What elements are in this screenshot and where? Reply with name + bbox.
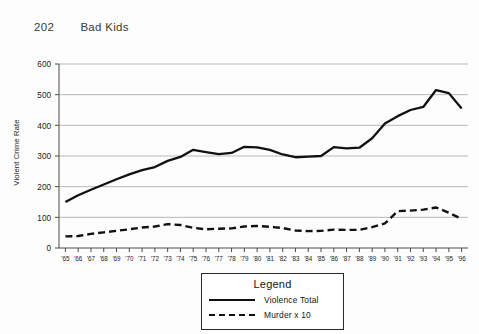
svg-text:'82: '82 <box>279 255 288 262</box>
svg-text:'88: '88 <box>355 255 364 262</box>
svg-text:'68: '68 <box>100 255 109 262</box>
svg-text:'94: '94 <box>432 255 441 262</box>
series-line-murder-x-10 <box>65 208 461 237</box>
gridlines <box>59 64 468 217</box>
svg-text:'83: '83 <box>291 255 300 262</box>
line-chart: 0100200300400500600 '65'66'67'68'69'70'7… <box>0 52 479 262</box>
svg-text:'92: '92 <box>406 255 415 262</box>
svg-text:400: 400 <box>37 122 51 131</box>
svg-text:'89: '89 <box>368 255 377 262</box>
book-page: 202 Bad Kids 0100200300400500600 '65'66'… <box>0 0 479 334</box>
data-series-lines <box>65 90 461 236</box>
legend-title: Legend <box>202 278 343 290</box>
svg-text:'85: '85 <box>317 255 326 262</box>
chart-legend: Legend Violence Total Murder x 10 <box>201 273 344 330</box>
series-line-violence-total <box>65 90 461 202</box>
figure-violent-crime-rate: 0100200300400500600 '65'66'67'68'69'70'7… <box>0 52 479 334</box>
svg-text:'76: '76 <box>202 255 211 262</box>
legend-swatch-solid-icon <box>209 295 255 305</box>
svg-text:'93: '93 <box>419 255 428 262</box>
svg-text:'90: '90 <box>381 255 390 262</box>
svg-text:'95: '95 <box>445 255 454 262</box>
svg-text:'78: '78 <box>227 255 236 262</box>
svg-text:500: 500 <box>37 91 51 100</box>
svg-text:'87: '87 <box>342 255 351 262</box>
svg-text:'66: '66 <box>74 255 83 262</box>
svg-text:'75: '75 <box>189 255 198 262</box>
svg-text:'72: '72 <box>151 255 160 262</box>
svg-text:600: 600 <box>37 60 51 69</box>
svg-text:'81: '81 <box>266 255 275 262</box>
page-running-header: 202 Bad Kids <box>34 21 129 33</box>
legend-label-violence-total: Violence Total <box>264 295 319 305</box>
svg-text:200: 200 <box>37 183 51 192</box>
legend-label-murder-x10: Murder x 10 <box>264 310 311 320</box>
legend-swatch-dashed-icon <box>209 310 255 320</box>
running-title: Bad Kids <box>80 21 128 33</box>
svg-text:'86: '86 <box>330 255 339 262</box>
svg-text:100: 100 <box>37 214 51 223</box>
legend-item-murder-x10: Murder x 10 <box>202 310 343 320</box>
svg-text:'74: '74 <box>176 255 185 262</box>
svg-text:'71: '71 <box>138 255 147 262</box>
svg-text:'69: '69 <box>112 255 121 262</box>
svg-text:0: 0 <box>46 244 51 253</box>
x-axis-ticks <box>65 248 461 252</box>
x-axis-tick-labels: '65'66'67'68'69'70'71'72'73'74'75'76'77'… <box>61 255 466 262</box>
svg-text:'84: '84 <box>304 255 313 262</box>
y-axis-ticks <box>55 64 59 248</box>
svg-text:'70: '70 <box>125 255 134 262</box>
svg-text:'79: '79 <box>240 255 249 262</box>
y-axis-tick-labels: 0100200300400500600 <box>37 60 51 253</box>
chart-plot-area: 0100200300400500600 '65'66'67'68'69'70'7… <box>0 52 479 262</box>
svg-text:'73: '73 <box>164 255 173 262</box>
svg-text:'67: '67 <box>87 255 96 262</box>
svg-text:'80: '80 <box>253 255 262 262</box>
svg-text:'91: '91 <box>394 255 403 262</box>
svg-text:300: 300 <box>37 152 51 161</box>
legend-item-violence-total: Violence Total <box>202 295 343 305</box>
svg-text:'65: '65 <box>61 255 70 262</box>
page-number: 202 <box>34 21 54 33</box>
svg-text:'77: '77 <box>215 255 224 262</box>
svg-text:'96: '96 <box>458 255 467 262</box>
y-axis-title: Violent Crime Rate <box>12 104 21 202</box>
